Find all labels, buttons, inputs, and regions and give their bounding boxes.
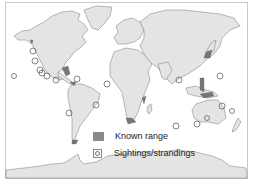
sighting-marker: [12, 74, 17, 79]
range-philippines: [200, 78, 204, 92]
legend-label-known-range: Known range: [115, 131, 168, 141]
europe: [114, 18, 144, 44]
asia: [140, 10, 240, 84]
sighting-marker: [194, 121, 200, 127]
sighting-marker: [104, 81, 110, 87]
map-legend: Known range Sightings/strandings: [93, 129, 195, 163]
range-gulf-of-mexico: [62, 66, 70, 76]
legend-item-sightings: Sightings/strandings: [93, 146, 195, 160]
range-tierra-del-fuego: [72, 140, 78, 144]
north-america: [14, 11, 88, 80]
africa: [110, 48, 152, 122]
sighting-circle-icon: [93, 149, 102, 158]
legend-label-sightings: Sightings/strandings: [114, 148, 195, 158]
sighting-marker: [74, 76, 80, 82]
sighting-marker: [32, 58, 38, 64]
sighting-marker: [217, 73, 223, 79]
known-range-swatch-icon: [93, 132, 104, 141]
sighting-marker: [30, 48, 36, 54]
legend-item-known-range: Known range: [93, 129, 195, 143]
sighting-marker: [230, 109, 235, 114]
madagascar: [147, 104, 152, 114]
new-zealand: [232, 118, 241, 132]
sighting-marker: [44, 73, 50, 79]
greenland: [84, 6, 112, 30]
